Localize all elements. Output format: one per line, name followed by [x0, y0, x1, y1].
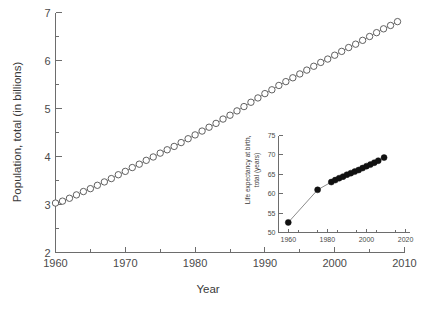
data-point — [150, 154, 156, 160]
y-tick-label: 60 — [268, 190, 276, 197]
data-point — [241, 103, 247, 109]
population-chart: 234567 196019701980199020002010 Year Pop… — [0, 0, 422, 312]
data-point — [345, 44, 351, 50]
data-point — [213, 120, 219, 126]
data-point — [80, 188, 86, 194]
data-point — [178, 139, 184, 145]
main-y-axis: 234567 — [44, 7, 61, 259]
data-point — [136, 161, 142, 167]
data-point — [352, 41, 358, 47]
main-series — [52, 18, 400, 206]
data-point — [115, 172, 121, 178]
y-tick-label: 70 — [268, 151, 276, 158]
data-point — [387, 22, 393, 28]
data-point — [234, 108, 240, 114]
x-tick-label: 1980 — [320, 236, 336, 243]
data-point — [199, 128, 205, 134]
main-series-markers — [52, 18, 400, 206]
data-point — [366, 33, 372, 39]
data-point — [164, 147, 170, 153]
y-tick-label: 75 — [268, 132, 276, 139]
data-point — [315, 187, 321, 193]
inset-y-axis: 505560657075 — [268, 132, 283, 236]
data-point — [185, 136, 191, 142]
y-tick-label: 4 — [44, 151, 50, 163]
data-point — [255, 95, 261, 101]
data-point — [143, 157, 149, 163]
data-point — [73, 192, 79, 198]
data-point — [87, 185, 93, 191]
x-tick-label: 1990 — [253, 257, 277, 269]
data-point — [157, 150, 163, 156]
data-point — [94, 182, 100, 188]
x-tick-label: 2000 — [359, 236, 375, 243]
data-point — [129, 164, 135, 170]
data-point — [122, 168, 128, 174]
inset-series — [285, 155, 387, 226]
data-point — [380, 26, 386, 32]
data-point — [375, 158, 381, 164]
data-point — [101, 179, 107, 185]
y-tick-label: 3 — [44, 199, 50, 211]
data-point — [285, 219, 291, 225]
data-point — [171, 143, 177, 149]
main-x-axis-title: Year — [196, 283, 219, 295]
main-y-axis-title: Population, total (in billions) — [11, 62, 23, 203]
inset-y-axis-title-line1: Life expectancy at birth, — [244, 135, 252, 204]
x-tick-label: 1960 — [43, 257, 67, 269]
data-point — [332, 52, 338, 58]
data-point — [248, 99, 254, 105]
y-tick-label: 7 — [44, 7, 50, 19]
x-tick-label: 2020 — [398, 236, 414, 243]
data-point — [318, 59, 324, 65]
x-tick-label: 2000 — [322, 257, 346, 269]
data-point — [373, 29, 379, 35]
data-point — [304, 67, 310, 73]
data-point — [325, 56, 331, 62]
x-tick-label: 1970 — [113, 257, 137, 269]
figure-container: 234567 196019701980199020002010 Year Pop… — [0, 0, 422, 312]
data-point — [394, 18, 400, 24]
data-point — [290, 75, 296, 81]
data-point — [108, 175, 114, 181]
inset-x-axis: 1960198020002020 — [279, 229, 414, 243]
data-point — [381, 155, 387, 161]
inset-y-axis-title-line2: total (years) — [253, 153, 261, 187]
data-point — [276, 82, 282, 88]
data-point — [297, 71, 303, 77]
inset-plot: 505560657075 1960198020002020 Life expec… — [244, 132, 413, 243]
data-point — [311, 63, 317, 69]
data-point — [338, 48, 344, 54]
x-tick-label: 2010 — [392, 257, 416, 269]
main-plot: 234567 196019701980199020002010 Year Pop… — [11, 7, 417, 296]
data-point — [59, 198, 65, 204]
y-tick-label: 50 — [268, 229, 276, 236]
data-point — [269, 87, 275, 93]
inset-series-markers — [285, 155, 387, 226]
data-point — [283, 78, 289, 84]
inset-axis-lines — [279, 136, 410, 233]
data-point — [220, 116, 226, 122]
main-x-axis: 196019701980199020002010 — [43, 247, 416, 269]
data-point — [227, 112, 233, 118]
data-point — [359, 37, 365, 43]
data-point — [52, 200, 58, 206]
y-tick-label: 5 — [44, 103, 50, 115]
x-tick-label: 1980 — [183, 257, 207, 269]
data-point — [206, 124, 212, 130]
data-point — [192, 132, 198, 138]
y-tick-label: 6 — [44, 55, 50, 67]
data-point — [66, 195, 72, 201]
x-tick-label: 1960 — [280, 236, 296, 243]
y-tick-label: 65 — [268, 171, 276, 178]
y-tick-label: 55 — [268, 210, 276, 217]
data-point — [262, 90, 268, 96]
